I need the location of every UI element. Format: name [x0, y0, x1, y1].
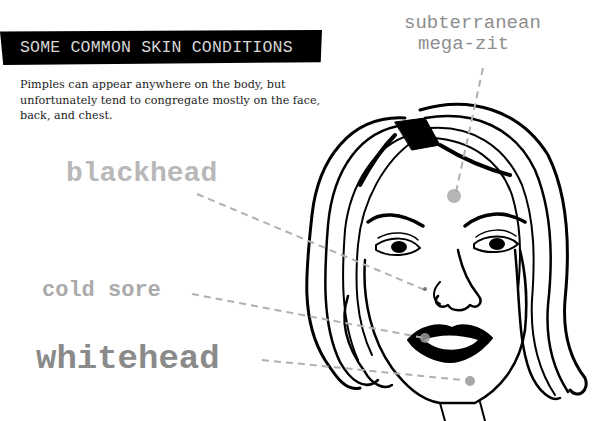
cold-sore-spot	[420, 333, 430, 343]
whitehead-spot	[465, 376, 475, 386]
mega-zit-spot	[447, 189, 461, 203]
blackhead-spot	[423, 287, 427, 291]
label-cold-sore: cold sore	[42, 280, 161, 302]
label-blackhead: blackhead	[66, 160, 217, 188]
label-mega-zit-line1: subterranean	[404, 13, 541, 34]
leader-line-whitehead	[262, 360, 462, 380]
label-subterranean-mega-zit: subterranean mega-zit	[404, 13, 541, 55]
label-mega-zit-line2: mega-zit	[404, 34, 541, 55]
leader-line-blackhead	[197, 194, 425, 290]
label-whitehead: whitehead	[36, 342, 220, 376]
